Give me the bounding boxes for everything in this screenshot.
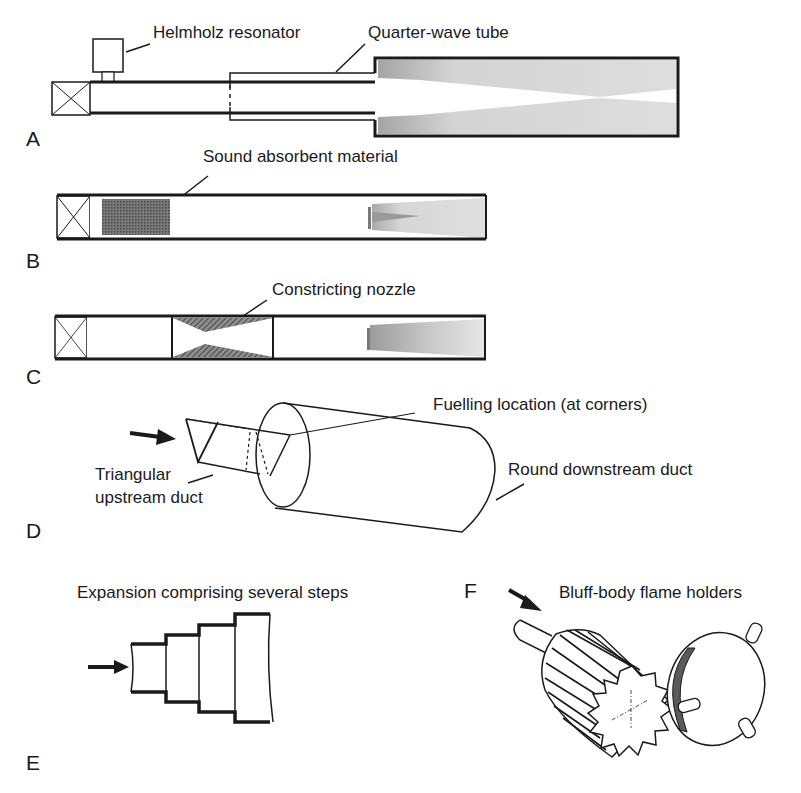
absorbent-material-block [102,199,170,235]
label-round-downstream-duct: Round downstream duct [508,460,693,479]
panel-letter-a: A [26,127,40,150]
panel-d: D Fuelling location (at corners) Triangu… [26,395,693,542]
panel-a: A Helmholz resonator Quarter-wave tube [26,23,678,150]
swirler-icon-a [52,82,90,115]
round-downstream-duct-icon [256,403,495,532]
panel-letter-b: B [26,249,40,272]
leader-round [496,484,524,500]
swirler-icon-b [57,196,90,238]
panel-f: F Bluff-body flame holders [464,579,777,757]
panel-c: C Constricting nozzle [26,280,486,388]
flow-arrow-icon-e [88,660,129,674]
flow-arrow-icon-f [509,590,542,611]
panel-b: B Sound absorbent material [26,147,486,272]
leader-triangular [188,475,213,483]
panel-letter-f: F [464,579,477,602]
flow-arrow-icon-d [130,429,176,445]
panel-letter-c: C [26,365,41,388]
triangular-upstream-duct-icon [186,419,290,476]
label-bluff-body-flame-holders: Bluff-body flame holders [559,583,742,602]
leader-quarter-wave [336,44,365,72]
stepped-expansion-icon [131,614,273,722]
label-helmholz-resonator: Helmholz resonator [153,23,301,42]
label-expansion-steps: Expansion comprising several steps [77,583,348,602]
leader-fuelling [290,413,415,435]
leader-helmholz [126,44,150,52]
helmholz-resonator-icon [93,39,123,82]
label-triangular: Triangular [95,465,171,484]
label-quarter-wave-tube: Quarter-wave tube [368,23,509,42]
combustor-a [375,58,678,136]
serrated-flame-holder-icon [514,620,672,757]
label-constricting-nozzle: Constricting nozzle [272,280,416,299]
label-upstream-duct: upstream duct [95,488,203,507]
swirler-icon-c [55,317,87,358]
panel-letter-e: E [26,751,40,774]
disc-flame-holder-icon [655,621,777,756]
panel-letter-d: D [26,519,41,542]
panel-e: E Expansion comprising several steps [26,583,348,774]
label-fuelling-location: Fuelling location (at corners) [433,395,647,414]
diagram-canvas: A Helmholz resonator Quarter-wave tube [0,0,801,793]
label-sound-absorbent-material: Sound absorbent material [203,147,398,166]
